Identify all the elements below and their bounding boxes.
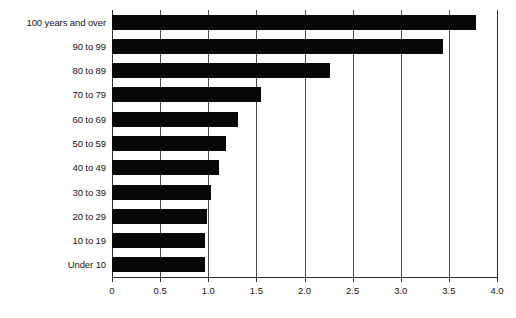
category-label: 80 to 89 <box>0 65 106 76</box>
bars-layer <box>112 10 497 277</box>
category-label: 10 to 19 <box>0 235 106 246</box>
value-axis: 00.51.01.52.02.53.03.54.0 <box>112 277 497 318</box>
category-label: 50 to 59 <box>0 138 106 149</box>
tick-label: 3.0 <box>394 285 407 296</box>
category-label: 90 to 99 <box>0 41 106 52</box>
bar <box>112 257 205 272</box>
tick-label: 2.5 <box>346 285 359 296</box>
category-axis: 100 years and over90 to 9980 to 8970 to … <box>0 10 106 277</box>
tick-mark <box>305 277 306 282</box>
tick-mark <box>401 277 402 282</box>
bar <box>112 185 211 200</box>
tick-label: 1.0 <box>202 285 215 296</box>
tick-label: 0.5 <box>154 285 167 296</box>
tick-mark <box>256 277 257 282</box>
tick-label: 0 <box>109 285 114 296</box>
bar <box>112 160 219 175</box>
tick-mark <box>160 277 161 282</box>
category-label: 70 to 79 <box>0 89 106 100</box>
bar <box>112 87 261 102</box>
tick-mark <box>449 277 450 282</box>
tick-label: 2.0 <box>298 285 311 296</box>
category-label: 100 years and over <box>0 17 106 28</box>
category-label: 40 to 49 <box>0 162 106 173</box>
tick-mark <box>112 277 113 282</box>
tick-label: 1.5 <box>250 285 263 296</box>
bar <box>112 233 205 248</box>
bar <box>112 63 330 78</box>
category-label: 60 to 69 <box>0 114 106 125</box>
category-label: 30 to 39 <box>0 187 106 198</box>
tick-label: 4.0 <box>490 285 503 296</box>
bar-chart-figure: 100 years and over90 to 9980 to 8970 to … <box>0 0 516 318</box>
bar <box>112 136 226 151</box>
plot-area <box>112 10 497 277</box>
tick-mark <box>353 277 354 282</box>
tick-mark <box>497 277 498 282</box>
tick-mark <box>208 277 209 282</box>
tick-label: 3.5 <box>442 285 455 296</box>
category-label: 20 to 29 <box>0 211 106 222</box>
bar <box>112 209 207 224</box>
gridline <box>497 10 498 277</box>
bar <box>112 15 476 30</box>
bar <box>112 39 443 54</box>
category-label: Under 10 <box>0 259 106 270</box>
bar <box>112 112 238 127</box>
